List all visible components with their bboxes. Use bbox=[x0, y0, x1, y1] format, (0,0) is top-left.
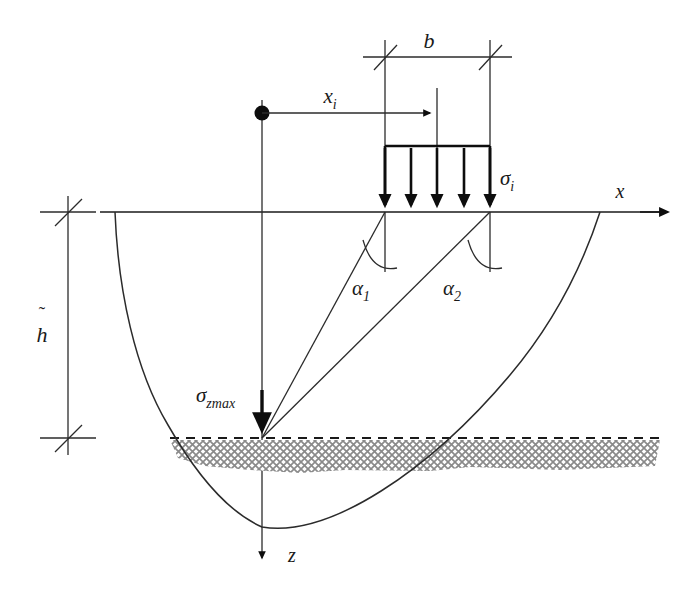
depth-dimension-line bbox=[40, 196, 96, 455]
label-axis-z: z bbox=[287, 544, 296, 566]
label-depth-h: h ˜ bbox=[37, 303, 48, 347]
label-depth-h-base: h bbox=[37, 322, 48, 347]
label-sigma-zmax: σzmax bbox=[196, 383, 236, 411]
label-alpha-1: α1 bbox=[352, 276, 370, 304]
label-axis-x: x bbox=[615, 180, 625, 202]
label-alpha-1-subscript: 1 bbox=[363, 289, 370, 304]
label-sigma-i-subscript: i bbox=[510, 179, 514, 194]
figure-root: b xi σi α1 α2 σzmax bbox=[0, 0, 692, 592]
label-sigma-zmax-subscript: zmax bbox=[205, 396, 236, 411]
svg-text:xi: xi bbox=[322, 84, 336, 112]
svg-text:σi: σi bbox=[500, 166, 514, 194]
label-xi: xi bbox=[322, 84, 336, 112]
label-alpha-2: α2 bbox=[443, 276, 461, 304]
stress-bulb-diagram: b xi σi α1 α2 σzmax bbox=[0, 0, 692, 592]
label-b: b bbox=[424, 28, 435, 53]
stress-bulb-curve bbox=[115, 212, 600, 528]
label-xi-subscript: i bbox=[333, 97, 337, 112]
label-depth-h-accent: ˜ bbox=[39, 303, 46, 324]
hatched-stress-band bbox=[160, 432, 670, 480]
label-sigma-i: σi bbox=[500, 166, 514, 194]
label-alpha-2-subscript: 2 bbox=[454, 289, 461, 304]
svg-text:α2: α2 bbox=[443, 276, 461, 304]
xi-dimension-arrow bbox=[262, 88, 437, 150]
distributed-load-block bbox=[385, 146, 490, 205]
svg-text:σzmax: σzmax bbox=[196, 383, 236, 411]
angle-rays bbox=[262, 212, 502, 438]
svg-text:α1: α1 bbox=[352, 276, 370, 304]
